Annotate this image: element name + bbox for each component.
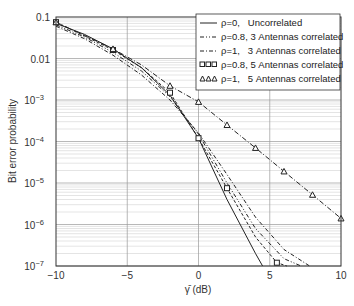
svg-text:ρ=0.8, 5 Antennas correlated: ρ=0.8, 5 Antennas correlated (221, 59, 343, 70)
x-tick-label: −10 (48, 270, 65, 281)
svg-text:ρ=1, 5 Antennas correlated: ρ=1, 5 Antennas correlated (221, 73, 341, 84)
svg-text:ρ=1, 3 Antennas correlated: ρ=1, 3 Antennas correlated (221, 45, 341, 56)
x-tick-label: 0 (196, 270, 202, 281)
x-axis-ticks: −10−50510 (48, 270, 347, 281)
square-marker-icon (196, 136, 201, 141)
y-tick-label: 10−3 (24, 93, 44, 106)
y-tick-label: 10−5 (24, 176, 44, 189)
legend-item-rho08-5ant: ρ=0.8, 5 Antennas correlated (200, 59, 343, 70)
ber-chart: 0.10.0110−310−410−510−610−7 −10−50510 γ̄… (0, 0, 354, 306)
legend-item-rho1-5ant: ρ=1, 5 Antennas correlated (200, 73, 341, 84)
square-marker-icon (225, 186, 230, 191)
svg-text:ρ=0, Uncorrelated: ρ=0, Uncorrelated (221, 17, 302, 28)
y-tick-label: 10−6 (24, 218, 44, 231)
square-marker-icon (168, 90, 173, 95)
legend: ρ=0, Uncorrelated ρ=0.8, 3 Antennas corr… (196, 14, 343, 90)
x-tick-label: −5 (122, 270, 134, 281)
y-tick-label: 10−4 (24, 135, 44, 148)
y-tick-label: 0.1 (36, 12, 50, 23)
square-marker-icon (274, 260, 279, 265)
x-axis-label: γ̄ (dB) (185, 284, 212, 295)
x-tick-label: 5 (267, 270, 273, 281)
legend-item-rho08-3ant: ρ=0.8, 3 Antennas correlated (200, 31, 343, 42)
x-tick-label: 10 (335, 270, 347, 281)
y-axis-label: Bit error probability (7, 99, 18, 183)
y-axis-ticks: 0.10.0110−310−410−510−610−7 (24, 12, 50, 272)
legend-item-rho1-3ant: ρ=1, 3 Antennas correlated (200, 45, 341, 56)
triangle-marker-icon (167, 83, 173, 89)
y-tick-label: 0.01 (31, 54, 51, 65)
svg-text:ρ=0.8, 3 Antennas correlated: ρ=0.8, 3 Antennas correlated (221, 31, 343, 42)
y-tick-label: 10−7 (24, 259, 44, 272)
